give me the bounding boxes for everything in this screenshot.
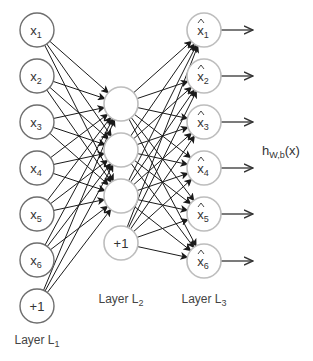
node-l3-6: x6 xyxy=(187,244,221,278)
node-l3-5: x5 xyxy=(187,197,221,231)
edge xyxy=(47,210,110,293)
node-label: +1 xyxy=(114,236,129,251)
nodes: x1x2x3x4x5x6+1+1x1x2x3x4x5x6 xyxy=(20,13,221,323)
node-l1-1: x1 xyxy=(20,13,54,47)
node-l2-1 xyxy=(104,87,138,121)
edge xyxy=(131,44,195,136)
edge xyxy=(54,108,105,119)
node-l1-4: x4 xyxy=(20,151,54,185)
node-l1-5: x5 xyxy=(20,197,54,231)
edge xyxy=(50,41,108,93)
node-l1-6: x6 xyxy=(20,243,54,277)
layer-label-l3: Layer L3 xyxy=(181,292,226,308)
node-l2-3 xyxy=(104,179,138,213)
edge xyxy=(45,165,113,291)
node-l3-2: x2 xyxy=(187,59,221,93)
edge xyxy=(131,136,195,229)
edge xyxy=(138,247,188,258)
output-function-label: hW,b(x) xyxy=(262,143,300,160)
edge xyxy=(47,118,110,201)
node-l3-1: x1 xyxy=(187,13,221,47)
node-l3-4: x4 xyxy=(187,151,221,185)
node-label: +1 xyxy=(30,299,45,314)
node-l1-2: x2 xyxy=(20,59,54,93)
edge xyxy=(51,114,108,157)
layer-label-l1: Layer L1 xyxy=(14,333,59,349)
node-l3-3: x3 xyxy=(187,105,221,139)
bias-node: +1 xyxy=(20,289,54,323)
node-l2-2 xyxy=(104,133,138,167)
node-l1-3: x3 xyxy=(20,105,54,139)
autoencoder-diagram: x1x2x3x4x5x6+1+1x1x2x3x4x5x6 Layer L1Lay… xyxy=(0,0,313,361)
bias-node: +1 xyxy=(104,226,138,260)
edge xyxy=(53,81,105,98)
edge xyxy=(44,120,115,291)
layer-label-l2: Layer L2 xyxy=(98,292,143,308)
output-arrows xyxy=(221,30,253,261)
